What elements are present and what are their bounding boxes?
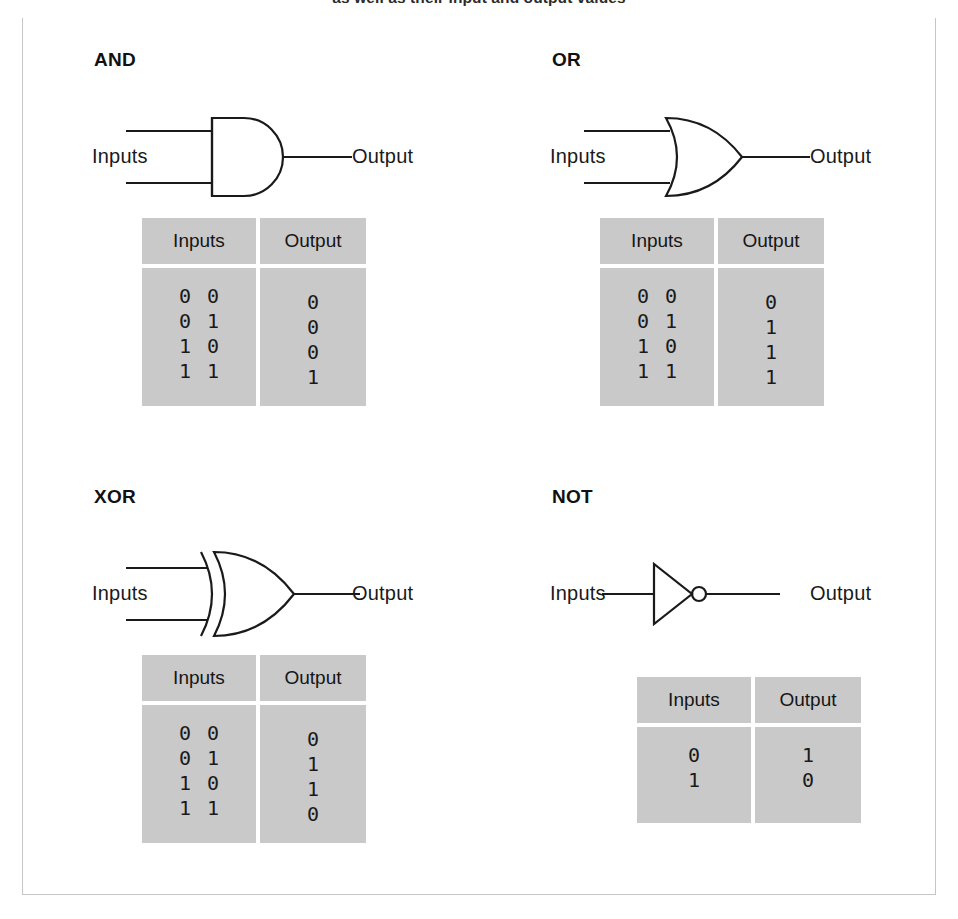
and-output-label: Output [352,145,413,168]
truth-table-or-inputs-column: Inputs 0 0 0 1 1 0 1 [600,218,714,406]
truth-table-and-output-column: Output 0 0 0 1 [260,218,366,406]
input-bit: 1 [171,771,199,796]
input-bit: 1 [199,746,227,771]
input-bit: 0 [657,284,685,309]
table-row: 0 [637,743,751,768]
input-bit: 0 [199,771,227,796]
column-body-output: 0 1 1 1 [718,268,824,406]
input-bit: 1 [171,334,199,359]
truth-table-xor: Inputs 0 0 0 1 1 0 1 [142,655,366,843]
input-bit: 0 [199,721,227,746]
xor-inputs-label: Inputs [92,582,148,605]
column-header-output: Output [755,677,861,723]
table-row: 0 [718,290,824,315]
gate-title-or: OR [552,49,581,71]
table-row: 0 0 [142,721,256,746]
figure-caption: as well as their input and output values [0,0,958,14]
column-body-output: 1 0 [755,727,861,823]
column-header-output: Output [718,218,824,264]
table-row: 0 [755,768,861,793]
table-row: 1 1 [600,359,714,384]
table-row: 1 0 [142,334,256,359]
column-body-inputs: 0 0 0 1 1 0 1 1 [142,705,256,843]
input-bit: 0 [629,284,657,309]
table-row: 0 0 [142,284,256,309]
table-row: 0 1 [142,309,256,334]
truth-table-not-inputs-column: Inputs 0 1 [637,677,751,823]
table-row: 1 [718,315,824,340]
input-bit: 1 [629,334,657,359]
input-bit: 0 [199,284,227,309]
table-row: 1 [718,365,824,390]
table-row: 1 0 [600,334,714,359]
table-row: 0 [260,727,366,752]
column-body-inputs: 0 1 [637,727,751,823]
input-bit: 0 [657,334,685,359]
table-row: 1 1 [142,796,256,821]
column-header-inputs: Inputs [142,655,256,701]
truth-table-or-output-column: Output 0 1 1 1 [718,218,824,406]
input-bit: 0 [171,309,199,334]
table-row: 0 [260,802,366,827]
gate-grid: AND Inputs Output Inputs 0 0 [22,23,936,895]
input-bit: 0 [171,746,199,771]
gate-title-not: NOT [552,486,593,508]
and-inputs-label: Inputs [92,145,148,168]
input-bit: 1 [199,309,227,334]
column-body-inputs: 0 0 0 1 1 0 1 1 [142,268,256,406]
or-inputs-label: Inputs [550,145,606,168]
table-row: 1 [718,340,824,365]
table-row: 1 [260,752,366,777]
not-output-label: Output [810,582,871,605]
column-header-output: Output [260,218,366,264]
truth-table-not-output-column: Output 1 0 [755,677,861,823]
table-row: 0 [260,315,366,340]
truth-table-and: Inputs 0 0 0 1 1 0 1 [142,218,366,406]
input-bit: 0 [171,721,199,746]
truth-table-xor-output-column: Output 0 1 1 0 [260,655,366,843]
table-row: 0 1 [142,746,256,771]
not-inputs-label: Inputs [550,582,606,605]
input-bit: 1 [657,309,685,334]
table-row: 1 1 [142,359,256,384]
input-bit: 0 [199,334,227,359]
column-header-output: Output [260,655,366,701]
input-bit: 1 [171,359,199,384]
truth-table-not: Inputs 0 1 Output 1 0 [637,677,861,823]
table-row: 1 [260,365,366,390]
input-bit: 1 [629,359,657,384]
column-body-output: 0 0 0 1 [260,268,366,406]
input-bit: 1 [199,796,227,821]
xor-output-label: Output [352,582,413,605]
column-body-output: 0 1 1 0 [260,705,366,843]
truth-table-and-inputs-column: Inputs 0 0 0 1 1 0 1 [142,218,256,406]
table-row: 1 0 [142,771,256,796]
or-output-label: Output [810,145,871,168]
table-row: 1 [260,777,366,802]
table-row: 0 [260,340,366,365]
table-row: 0 0 [600,284,714,309]
input-bit: 1 [199,359,227,384]
figure-caption-text: as well as their input and output values [0,0,958,7]
table-row: 1 [637,768,751,793]
input-bit: 1 [680,768,708,793]
truth-table-or: Inputs 0 0 0 1 1 0 1 [600,218,824,406]
input-bit: 0 [629,309,657,334]
column-body-inputs: 0 0 0 1 1 0 1 1 [600,268,714,406]
table-row: 1 [755,743,861,768]
column-header-inputs: Inputs [142,218,256,264]
column-header-inputs: Inputs [600,218,714,264]
table-row: 0 1 [600,309,714,334]
input-bit: 0 [171,284,199,309]
input-bit: 1 [171,796,199,821]
gate-title-xor: XOR [94,486,136,508]
input-bit: 1 [657,359,685,384]
column-header-inputs: Inputs [637,677,751,723]
gate-title-and: AND [94,49,136,71]
truth-table-xor-inputs-column: Inputs 0 0 0 1 1 0 1 [142,655,256,843]
input-bit: 0 [680,743,708,768]
table-row: 0 [260,290,366,315]
